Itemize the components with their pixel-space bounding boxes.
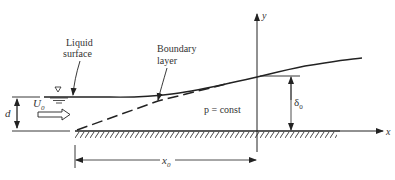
x0-label: x0 (161, 154, 171, 169)
pressure-label: p = const (204, 104, 241, 115)
x-axis-label: x (385, 126, 391, 137)
liquid-surface-label: Liquid (66, 37, 93, 48)
boundary-layer-label: Boundary (157, 43, 196, 54)
y-axis-label: y (261, 10, 267, 21)
water-level-icon (50, 87, 68, 103)
flat-plate (75, 131, 340, 138)
liquid-surface-curve (44, 58, 362, 97)
depth-label: d (5, 107, 11, 119)
boundary-layer-label-2: layer (157, 55, 178, 66)
delta-label: δ0 (294, 96, 303, 111)
liquid-surface-label-2: surface (63, 48, 92, 59)
velocity-label: U0 (33, 97, 45, 112)
boundary-layer-diagram: x y Liquid surface Boundary layer d U0 p… (0, 0, 395, 180)
liquid-surface-leader (73, 61, 80, 95)
